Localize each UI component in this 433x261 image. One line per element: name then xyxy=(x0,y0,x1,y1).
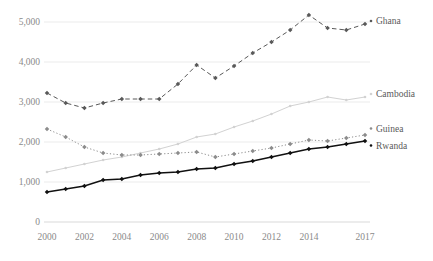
data-point xyxy=(288,151,293,156)
series-line-guinea xyxy=(47,129,365,157)
x-tick-2006: 2006 xyxy=(150,232,169,242)
data-point xyxy=(307,138,312,143)
data-point xyxy=(194,167,199,172)
series-label-guinea: Guinea xyxy=(376,124,404,134)
y-tick-3000: 3,000 xyxy=(19,97,41,107)
y-tick-0: 0 xyxy=(35,217,40,227)
data-point xyxy=(138,97,143,102)
data-point xyxy=(251,149,256,154)
gridlines xyxy=(44,22,370,222)
data-point xyxy=(325,145,330,150)
x-tick-2002: 2002 xyxy=(75,232,94,242)
y-axis-tick-labels: 01,0002,0003,0004,0005,000 xyxy=(19,17,41,227)
data-point xyxy=(364,96,367,99)
data-point xyxy=(308,101,311,104)
data-point xyxy=(64,167,67,170)
data-point xyxy=(46,171,49,174)
data-point xyxy=(251,159,256,164)
data-point xyxy=(82,145,87,150)
data-point xyxy=(214,133,217,136)
data-point xyxy=(157,152,162,157)
data-point xyxy=(63,187,68,192)
data-point xyxy=(232,162,237,167)
data-point xyxy=(233,126,236,129)
data-point xyxy=(138,173,143,178)
data-point xyxy=(251,120,254,123)
data-point xyxy=(83,163,86,166)
x-tick-2014: 2014 xyxy=(299,232,318,242)
data-point xyxy=(101,151,106,156)
series-line-cambodia xyxy=(47,97,365,172)
x-tick-2010: 2010 xyxy=(225,232,244,242)
data-point xyxy=(120,177,125,182)
data-point xyxy=(45,91,50,96)
data-point xyxy=(363,133,368,138)
data-point xyxy=(176,170,181,175)
x-tick-2008: 2008 xyxy=(187,232,206,242)
data-point xyxy=(213,166,218,171)
y-tick-5000: 5,000 xyxy=(19,17,41,27)
data-point xyxy=(101,101,106,106)
data-point xyxy=(213,155,218,160)
data-point xyxy=(63,101,68,106)
line-chart: 01,0002,0003,0004,0005,000 2000200220042… xyxy=(0,0,433,261)
data-point xyxy=(288,142,293,147)
data-point xyxy=(326,96,329,99)
series-label-cambodia: Cambodia xyxy=(376,89,416,99)
series-lines xyxy=(47,15,365,192)
series-labels: GhanaCambodiaGuineaRwanda xyxy=(370,16,416,151)
data-point xyxy=(102,159,105,162)
data-point xyxy=(344,142,349,147)
x-tick-2004: 2004 xyxy=(112,232,131,242)
data-point xyxy=(176,151,181,156)
series-line-rwanda xyxy=(47,141,365,192)
data-point xyxy=(101,178,106,183)
data-point xyxy=(325,139,330,144)
legend-marker-cambodia xyxy=(370,93,373,96)
series-line-ghana xyxy=(47,15,365,108)
legend-marker-rwanda xyxy=(370,144,373,147)
data-point xyxy=(82,106,87,111)
data-point xyxy=(177,143,180,146)
data-point xyxy=(120,97,125,102)
data-point xyxy=(344,136,349,141)
series-label-ghana: Ghana xyxy=(376,16,402,26)
y-tick-4000: 4,000 xyxy=(19,57,41,67)
data-point xyxy=(82,184,87,189)
data-point xyxy=(344,28,349,33)
data-point xyxy=(45,127,50,132)
data-point xyxy=(63,135,68,140)
data-point xyxy=(363,22,368,27)
x-tick-2012: 2012 xyxy=(262,232,281,242)
data-point xyxy=(363,139,368,144)
data-point xyxy=(232,152,237,157)
legend-marker-ghana xyxy=(370,20,373,23)
x-tick-2017: 2017 xyxy=(356,232,375,242)
data-point xyxy=(157,171,162,176)
data-point xyxy=(307,147,312,152)
data-point xyxy=(269,146,274,151)
x-axis-tick-labels: 200020022004200620082010201220142017 xyxy=(38,232,375,242)
x-tick-2000: 2000 xyxy=(38,232,57,242)
data-point xyxy=(158,148,161,151)
legend-marker-guinea xyxy=(370,127,373,130)
y-tick-1000: 1,000 xyxy=(19,177,41,187)
data-point xyxy=(345,99,348,102)
data-point xyxy=(270,113,273,116)
chart-canvas: 01,0002,0003,0004,0005,000 2000200220042… xyxy=(0,0,433,261)
data-point xyxy=(45,190,50,195)
data-point xyxy=(194,150,199,155)
data-point xyxy=(195,136,198,139)
y-tick-2000: 2,000 xyxy=(19,137,41,147)
series-markers xyxy=(45,13,368,195)
series-label-rwanda: Rwanda xyxy=(376,141,408,151)
data-point xyxy=(157,97,162,102)
data-point xyxy=(289,105,292,108)
data-point xyxy=(269,155,274,160)
